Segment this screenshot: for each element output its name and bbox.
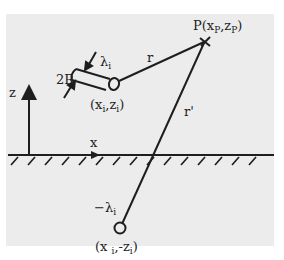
- image-method-diagram: z x 2R λi (xi,zi) r P(xP,zP) r' −λi: [0, 0, 284, 260]
- conductor-position-label: (xi,zi): [90, 97, 124, 114]
- lambda-subscript: i: [108, 61, 111, 71]
- radius-label: 2R: [56, 72, 75, 87]
- image-charge-label: −λi: [94, 200, 116, 217]
- diagram-background: [6, 14, 274, 246]
- distance-r-label: r: [147, 50, 154, 65]
- x-axis-label: x: [90, 135, 98, 150]
- z-axis-label: z: [9, 85, 16, 100]
- distance-r-prime-label: r': [184, 104, 194, 119]
- lambda-symbol: λ: [100, 54, 108, 69]
